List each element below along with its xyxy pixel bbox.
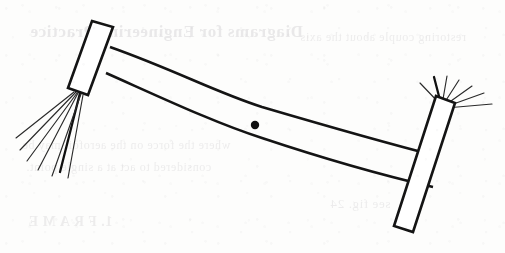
beam-lower-edge (106, 73, 433, 187)
lens-beam (106, 47, 437, 187)
left-bristle-fan (16, 92, 83, 178)
scanned-page: Diagrams for Engineering Practice where … (0, 0, 505, 253)
beam-upper-edge (110, 47, 437, 156)
left-paddle (68, 21, 113, 95)
pivot-dot (251, 121, 259, 129)
mechanism-diagram (0, 0, 505, 253)
right-paddle (394, 96, 455, 232)
left-bristle-7 (16, 92, 74, 138)
